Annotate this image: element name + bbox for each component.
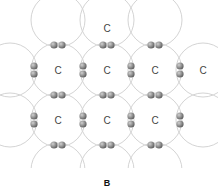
electron-icon <box>176 62 183 69</box>
electron-icon <box>99 141 106 148</box>
electron-icon <box>50 91 57 98</box>
carbon-atom-label: C <box>103 23 110 34</box>
carbon-atom-label: C <box>103 115 110 126</box>
carbon-atom-label: C <box>199 65 206 76</box>
figure-caption: B <box>104 178 111 188</box>
electron-icon <box>147 141 154 148</box>
carbon-atom-label: C <box>151 115 158 126</box>
electron-icon <box>30 62 37 69</box>
orbital-arc <box>31 143 85 196</box>
electron-icon <box>147 41 154 48</box>
electron-icon <box>99 41 106 48</box>
electron-icon <box>127 70 134 77</box>
electron-icon <box>58 41 65 48</box>
carbon-atom-label: C <box>151 65 158 76</box>
carbon-atom-label: C <box>54 115 61 126</box>
orbital-arc <box>31 0 85 47</box>
electron-icon <box>155 141 162 148</box>
electron-icon <box>127 120 134 127</box>
orbital-arc <box>128 0 182 47</box>
electron-icon <box>58 91 65 98</box>
electron-icon <box>107 141 114 148</box>
electron-icon <box>147 91 154 98</box>
orbital-arc <box>128 143 182 196</box>
electron-icon <box>79 62 86 69</box>
electron-icon <box>107 41 114 48</box>
electron-icon <box>176 70 183 77</box>
carbon-lattice-diagram: CCCCCCCC B <box>0 0 218 196</box>
electron-icon <box>50 141 57 148</box>
electron-icon <box>176 112 183 119</box>
electron-icon <box>79 112 86 119</box>
electron-icon <box>176 120 183 127</box>
electron-icon <box>30 112 37 119</box>
carbon-atom-label: C <box>103 65 110 76</box>
electron-icon <box>79 70 86 77</box>
electron-pairs <box>30 41 183 148</box>
electron-icon <box>50 41 57 48</box>
electron-icon <box>99 91 106 98</box>
electron-icon <box>58 141 65 148</box>
electron-icon <box>127 62 134 69</box>
electron-icon <box>30 70 37 77</box>
electron-icon <box>107 91 114 98</box>
orbital-arc <box>80 143 134 196</box>
electron-icon <box>30 120 37 127</box>
carbon-atom-label: C <box>54 65 61 76</box>
electron-icon <box>79 120 86 127</box>
electron-icon <box>155 91 162 98</box>
electron-icon <box>155 41 162 48</box>
electron-icon <box>127 112 134 119</box>
